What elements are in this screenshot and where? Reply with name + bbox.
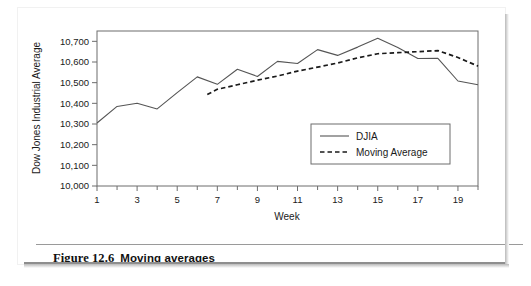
x-axis-tick-labels: 135791113151719 bbox=[94, 194, 463, 205]
chart-legend: DJIA Moving Average bbox=[311, 124, 450, 164]
line-chart: 10,00010,10010,20010,30010,40010,50010,6… bbox=[18, 8, 505, 244]
figure-page: 10,00010,10010,20010,30010,40010,50010,6… bbox=[0, 0, 531, 286]
y-axis-tick-labels: 10,00010,10010,20010,30010,40010,50010,6… bbox=[60, 36, 89, 192]
y-axis-title: Dow Jones Industrial Average bbox=[31, 42, 42, 175]
x-tick-label: 1 bbox=[94, 194, 99, 205]
y-tick-label: 10,100 bbox=[60, 160, 89, 171]
x-tick-label: 15 bbox=[372, 194, 383, 205]
y-tick-label: 10,000 bbox=[60, 180, 89, 191]
x-axis-title: Week bbox=[274, 211, 300, 222]
x-tick-label: 5 bbox=[175, 194, 180, 205]
x-axis-ticks bbox=[97, 186, 478, 191]
legend-box bbox=[311, 124, 450, 164]
x-tick-label: 17 bbox=[413, 194, 424, 205]
legend-label-moving-average: Moving Average bbox=[356, 147, 428, 158]
chart-container: 10,00010,10010,20010,30010,40010,50010,6… bbox=[18, 8, 505, 244]
x-tick-label: 11 bbox=[293, 194, 303, 205]
y-tick-label: 10,700 bbox=[60, 36, 89, 47]
y-tick-label: 10,200 bbox=[60, 139, 89, 150]
x-tick-label: 3 bbox=[134, 194, 139, 205]
card-shadow-bottom bbox=[24, 264, 509, 268]
card-shadow-right bbox=[505, 14, 509, 268]
y-tick-label: 10,500 bbox=[60, 77, 89, 88]
x-tick-label: 19 bbox=[453, 194, 464, 205]
figure-caption-bar: Figure 12.6Moving averages bbox=[36, 244, 523, 273]
x-tick-label: 7 bbox=[215, 194, 220, 205]
legend-label-djia: DJIA bbox=[356, 131, 378, 142]
x-tick-label: 9 bbox=[255, 194, 260, 205]
x-tick-label: 13 bbox=[332, 194, 343, 205]
y-tick-label: 10,600 bbox=[60, 56, 89, 67]
y-tick-label: 10,400 bbox=[60, 98, 89, 109]
figure-card: 10,00010,10010,20010,30010,40010,50010,6… bbox=[18, 8, 505, 264]
y-tick-label: 10,300 bbox=[60, 118, 89, 129]
y-axis-ticks bbox=[92, 41, 97, 186]
